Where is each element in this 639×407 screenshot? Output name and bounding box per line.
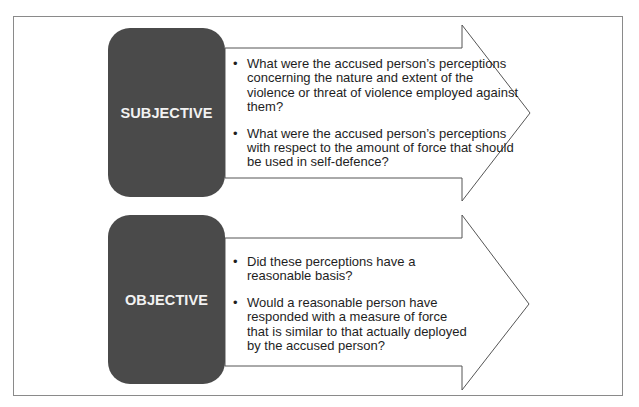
- subjective-label-box: SUBJECTIVE: [108, 28, 225, 197]
- subjective-questions: What were the accused person’s perceptio…: [233, 57, 523, 182]
- objective-questions: Did these perceptions have a reasonable …: [233, 255, 523, 365]
- objective-question-2: Would a reasonable person have responded…: [233, 296, 472, 354]
- objective-label-box: OBJECTIVE: [108, 215, 225, 384]
- subjective-question-1: What were the accused person’s perceptio…: [233, 57, 523, 115]
- subjective-question-2: What were the accused person’s perceptio…: [233, 127, 523, 170]
- objective-label: OBJECTIVE: [125, 292, 208, 308]
- objective-question-1: Did these perceptions have a reasonable …: [233, 255, 447, 284]
- subjective-label: SUBJECTIVE: [120, 105, 212, 121]
